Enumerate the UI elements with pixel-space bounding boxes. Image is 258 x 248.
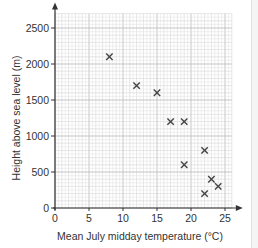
page-edge	[251, 0, 258, 248]
x-tick-label: 5	[86, 212, 92, 224]
y-tick-label: 2500	[26, 22, 50, 34]
y-tick-label: 0	[43, 202, 49, 214]
axes	[52, 3, 243, 211]
x-axis-arrow-icon	[236, 205, 243, 211]
x-tick-label: 20	[185, 212, 197, 224]
x-tick-label: 25	[219, 212, 231, 224]
chart-container: 051015202505001000150020002500 Mean July…	[0, 0, 258, 248]
y-axis-label: Height above sea level (m)	[10, 56, 22, 181]
y-tick-label: 500	[31, 166, 49, 178]
x-tick-label: 10	[117, 212, 129, 224]
grid	[55, 14, 232, 208]
scatter-chart: 051015202505001000150020002500 Mean July…	[0, 0, 258, 248]
x-tick-label: 0	[52, 212, 58, 224]
x-axis-label: Mean July midday temperature (°C)	[57, 230, 223, 242]
y-tick-label: 2000	[26, 58, 50, 70]
y-axis-arrow-icon	[52, 3, 58, 10]
y-tick-label: 1500	[26, 94, 50, 106]
y-tick-label: 1000	[26, 130, 50, 142]
x-tick-label: 15	[151, 212, 163, 224]
